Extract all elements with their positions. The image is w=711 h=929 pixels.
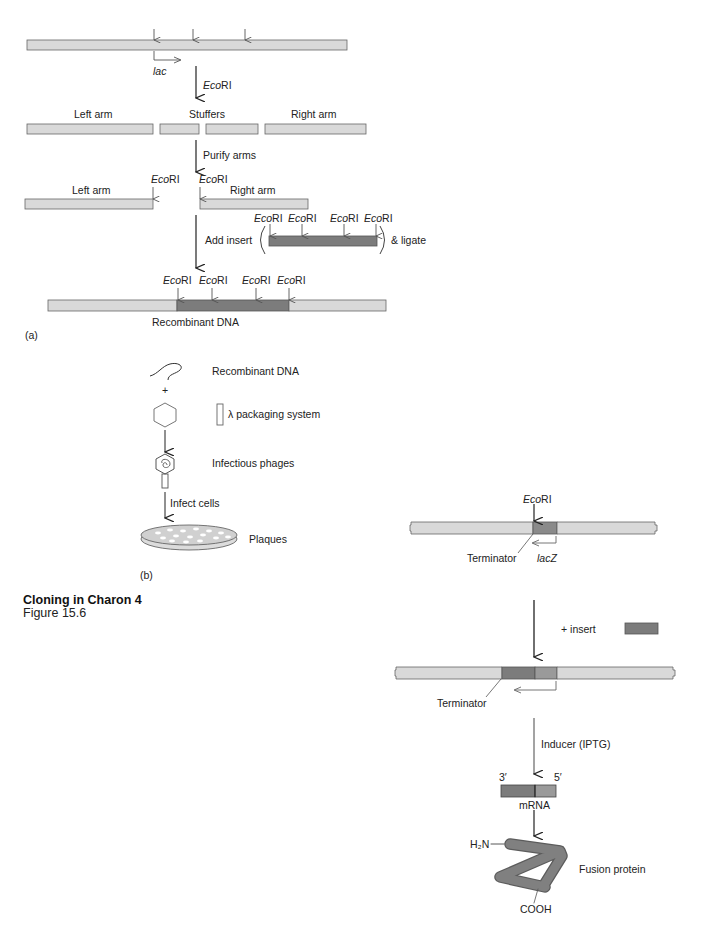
enzyme-prefix: Eco (203, 79, 221, 91)
ecori-label: EcoRI (330, 213, 359, 224)
lacz-segment (535, 667, 557, 679)
lac-label: lac (153, 66, 166, 77)
capsid-icon (154, 403, 176, 427)
plus-sign: + (162, 385, 168, 396)
mrna-label: mRNA (519, 800, 550, 811)
right-arm-label: Right arm (230, 185, 276, 196)
phage-icon (156, 454, 174, 488)
fusion-protein-label: Fusion protein (579, 864, 646, 875)
mrna-insert (501, 785, 535, 797)
fusion-protein-icon (491, 844, 562, 903)
enzyme-prefix: Eco (199, 274, 217, 286)
stuffers-label: Stuffers (189, 109, 225, 120)
recombinant-left (48, 300, 177, 311)
c-terminus-label: COOH (520, 904, 552, 915)
enzyme-prefix: Eco (163, 274, 181, 286)
ecori-label: EcoRI (288, 213, 317, 224)
enzyme-suffix: RI (295, 274, 306, 286)
infect-cells-label: Infect cells (170, 498, 220, 509)
enzyme-suffix: RI (221, 79, 232, 91)
ecori-label: EcoRI (163, 275, 192, 286)
enzyme-suffix: RI (272, 212, 283, 224)
ecori-label: EcoRI (199, 275, 228, 286)
recombinant-insert (177, 300, 289, 311)
mrna-lacz (535, 785, 556, 797)
enzyme-prefix: Eco (523, 493, 541, 505)
enzyme-prefix: Eco (364, 212, 382, 224)
enzyme-suffix: RI (306, 212, 317, 224)
right-arm-bar (265, 124, 366, 134)
lac-promoter-arrow (154, 51, 180, 60)
enzyme-suffix: RI (181, 274, 192, 286)
plus-insert-label: + insert (561, 624, 596, 635)
add-insert-label: Add insert (205, 235, 252, 246)
ecori-label: EcoRI (277, 275, 306, 286)
insert-in-vector (502, 667, 535, 679)
panel-b-label: (b) (140, 570, 153, 581)
right-arm-bar (200, 199, 308, 209)
packaging-system-label: λ packaging system (228, 409, 320, 420)
enzyme-suffix: RI (217, 274, 228, 286)
left-arm-label: Left arm (72, 185, 111, 196)
enzyme-prefix: Eco (199, 173, 217, 185)
petri-dish-icon (141, 525, 237, 550)
stuffer-bar-1 (160, 124, 199, 134)
enzyme-prefix: Eco (330, 212, 348, 224)
enzyme-prefix: Eco (151, 173, 169, 185)
purify-arms-label: Purify arms (203, 150, 256, 161)
dna-squiggle-icon (150, 363, 181, 380)
plaques-label: Plaques (249, 534, 287, 545)
n-terminus-label: H₂N (470, 839, 489, 850)
enzyme-suffix: RI (382, 212, 393, 224)
recombinant-dna-label: Recombinant DNA (212, 366, 299, 377)
enzyme-suffix: RI (169, 173, 180, 185)
terminator-label: Terminator (467, 553, 517, 564)
right-arm-label: Right arm (291, 109, 337, 120)
ligate-label: & ligate (391, 235, 426, 246)
stuffer-bar-2 (206, 124, 258, 134)
enzyme-prefix: Eco (288, 212, 306, 224)
insert-bar (269, 236, 377, 246)
enzyme-prefix: Eco (254, 212, 272, 224)
panel-a-label: (a) (25, 330, 38, 341)
figure-title: Cloning in Charon 4 (23, 593, 142, 607)
lacz-label: lacZ (537, 553, 557, 564)
inducer-label: Inducer (IPTG) (541, 739, 610, 750)
terminator-label: Terminator (437, 698, 487, 709)
ecori-label: EcoRI (523, 494, 552, 505)
ecori-label: EcoRI (254, 213, 283, 224)
enzyme-prefix: Eco (277, 274, 295, 286)
ecori-label: EcoRI (203, 80, 232, 91)
lambda-dna-bar (27, 40, 347, 50)
enzyme-suffix: RI (541, 493, 552, 505)
enzyme-suffix: RI (217, 173, 228, 185)
terminator-pointer (518, 534, 533, 553)
enzyme-suffix: RI (260, 274, 271, 286)
ecori-label: EcoRI (199, 174, 228, 185)
ecori-label: EcoRI (242, 275, 271, 286)
tail-icon (217, 404, 223, 425)
insert-swatch (625, 623, 658, 634)
paren-left (261, 226, 266, 254)
left-arm-bar (27, 124, 153, 134)
lambda-gt11-vector (410, 522, 533, 534)
lacz-segment (533, 522, 557, 534)
enzyme-suffix: RI (348, 212, 359, 224)
ecori-label: EcoRI (151, 174, 180, 185)
infectious-phages-label: Infectious phages (212, 458, 294, 469)
recombinant-right (289, 300, 386, 311)
recombinant-dna-label: Recombinant DNA (152, 317, 239, 328)
five-prime-label: 5′ (554, 772, 562, 783)
paren-right (380, 226, 385, 254)
enzyme-prefix: Eco (242, 274, 260, 286)
figure-number: Figure 15.6 (23, 606, 86, 620)
lacz-direction-arrow (533, 536, 556, 543)
three-prime-label: 3′ (499, 772, 507, 783)
left-arm-bar (25, 199, 153, 209)
panel-a (25, 29, 386, 311)
figure-diagram (0, 0, 711, 929)
ecori-label: EcoRI (364, 213, 393, 224)
left-arm-label: Left arm (74, 109, 113, 120)
